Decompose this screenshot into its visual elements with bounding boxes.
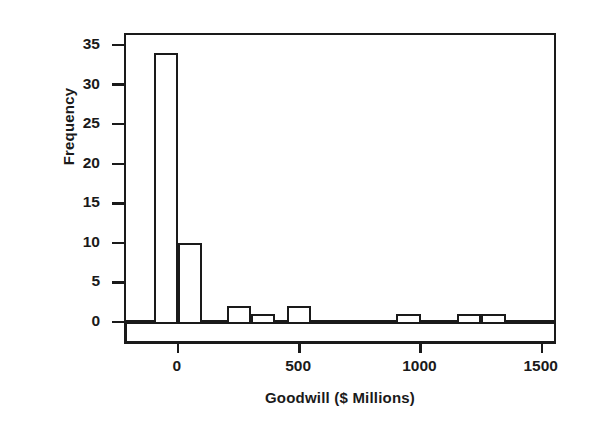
x-axis-tick: 500 xyxy=(298,341,301,353)
y-axis-tick-label: 0 xyxy=(0,312,100,330)
y-axis-tick-label: 25 xyxy=(0,114,100,132)
y-axis-tick-label: 15 xyxy=(0,193,100,211)
histogram-bar xyxy=(154,53,178,325)
histogram-bar xyxy=(287,306,311,324)
y-axis-tick-mark xyxy=(112,321,124,324)
y-axis-tick-mark xyxy=(112,123,124,126)
y-axis-tick-label: 35 xyxy=(0,35,100,53)
y-axis-tick-label: 20 xyxy=(0,154,100,172)
histogram-bar xyxy=(481,314,505,324)
x-axis-tick-label: 1500 xyxy=(501,357,581,375)
y-axis-tick-mark xyxy=(112,44,124,47)
y-axis-tick-mark xyxy=(112,202,124,205)
y-axis-tick-label: 10 xyxy=(0,233,100,251)
y-axis-tick-mark xyxy=(112,83,124,86)
histogram-bar xyxy=(396,314,420,324)
y-axis-tick-mark xyxy=(112,281,124,284)
x-axis-tick-label: 0 xyxy=(137,357,217,375)
x-axis-tick: 1000 xyxy=(419,341,422,353)
histogram-bar xyxy=(251,314,275,324)
y-axis-tick-label: 30 xyxy=(0,75,100,93)
x-axis-tick: 0 xyxy=(177,341,180,353)
x-axis-line xyxy=(124,341,556,344)
y-axis-tick-label: 5 xyxy=(0,272,100,290)
x-axis-tick: 1500 xyxy=(541,341,544,353)
y-axis-tick-mark xyxy=(112,163,124,166)
x-axis-title: Goodwill ($ Millions) xyxy=(124,389,556,406)
y-axis-tick-mark xyxy=(112,242,124,245)
x-axis-tick-label: 1000 xyxy=(379,357,459,375)
histogram-figure: Frequency 05101520253035 050010001500 Go… xyxy=(0,0,596,436)
histogram-bar xyxy=(227,306,251,324)
x-axis-tick-label: 500 xyxy=(258,357,338,375)
histogram-bar xyxy=(178,243,202,325)
x-axis-left-cap xyxy=(124,322,127,343)
histogram-bar xyxy=(457,314,481,324)
x-axis-right-cap xyxy=(554,322,557,343)
